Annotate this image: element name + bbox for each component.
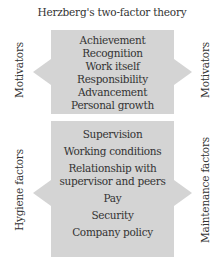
motivators-right-arrow-icon [174,59,192,85]
motivator-item: Advancement [51,86,174,99]
diagram-title: Herzberg's two-factor theory [0,6,224,18]
motivators-box: Achievement Recognition Work itself Resp… [51,30,174,114]
hygiene-box: Supervision Working conditions Relations… [51,121,174,257]
motivators-right-label: Motivators [199,42,211,98]
hygiene-item: Working conditions [51,145,174,157]
hygiene-item: Pay [51,192,174,204]
motivator-item: Responsibility [51,73,174,86]
motivators-left-label: Motivators [13,42,25,98]
maintenance-right-label: Maintenance factors [199,137,211,243]
hygiene-item: Security [51,209,174,221]
hygiene-right-arrow-icon [174,180,192,206]
hygiene-item: Supervision [51,128,174,140]
hygiene-left-arrow-icon [33,180,51,206]
motivators-left-arrow-icon [33,59,51,85]
motivator-item: Personal growth [51,99,174,112]
motivator-item: Recognition [51,47,174,60]
hygiene-item: Relationship with supervisor and peers [51,162,174,186]
hygiene-item: Company policy [51,226,174,238]
motivator-item: Work itself [51,60,174,73]
hygiene-left-label: Hygiene factors [13,149,25,231]
motivator-item: Achievement [51,34,174,47]
